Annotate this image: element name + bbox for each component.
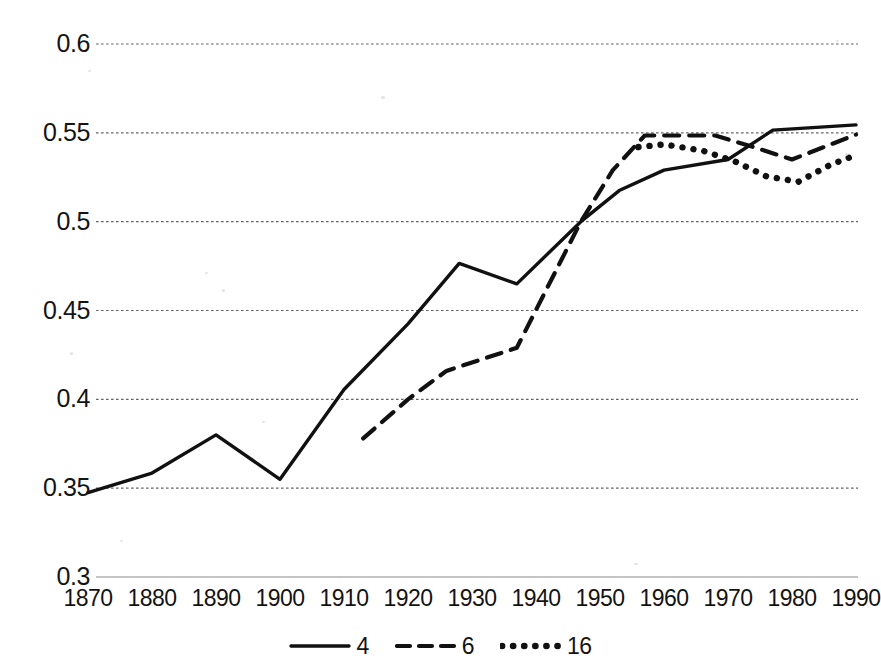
y-tick-label: 0.45 bbox=[43, 296, 90, 325]
y-tick-label: 0.5 bbox=[56, 207, 90, 236]
scan-speck bbox=[381, 96, 385, 99]
series-line-6 bbox=[363, 135, 856, 439]
y-tick-label: 0.6 bbox=[56, 29, 90, 58]
scan-speck bbox=[120, 540, 123, 542]
chart-legend: 4616 bbox=[0, 628, 881, 664]
legend-label: 16 bbox=[567, 635, 592, 658]
series-line-16 bbox=[638, 144, 856, 181]
series-lines bbox=[88, 125, 856, 493]
legend-label: 6 bbox=[462, 635, 474, 658]
legend-label: 4 bbox=[356, 635, 368, 658]
scan-speck bbox=[88, 70, 91, 72]
line-chart: 0.30.350.40.450.50.550.6 187018801890190… bbox=[0, 0, 881, 671]
legend-entry-6: 6 bbox=[395, 635, 474, 658]
legend-swatch-dotted bbox=[500, 637, 562, 655]
gridlines bbox=[96, 44, 858, 577]
legend-entry-4: 4 bbox=[289, 635, 368, 658]
scan-speck bbox=[634, 563, 638, 565]
scan-speck bbox=[845, 153, 848, 156]
scan-speck bbox=[205, 272, 208, 274]
scan-speck bbox=[836, 40, 839, 42]
y-tick-label: 0.4 bbox=[56, 384, 90, 413]
x-tick-label: 1990 bbox=[816, 585, 881, 612]
scan-speck bbox=[70, 352, 73, 355]
legend-entry-16: 16 bbox=[500, 635, 592, 658]
plot-area bbox=[0, 0, 881, 671]
legend-swatch-dashed bbox=[395, 637, 457, 655]
y-tick-label: 0.35 bbox=[43, 473, 90, 502]
scan-speck bbox=[222, 289, 225, 292]
series-line-4 bbox=[88, 125, 856, 493]
legend-swatch-solid bbox=[289, 637, 351, 655]
scan-speck bbox=[262, 421, 265, 423]
y-tick-label: 0.55 bbox=[43, 118, 90, 147]
